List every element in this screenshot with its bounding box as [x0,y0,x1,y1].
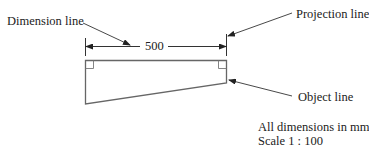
right-angle-marker-left [86,61,94,69]
dimension-line-label: Dimension line [7,14,84,28]
scale-note: Scale 1 : 100 [258,134,323,148]
object-outline [86,61,227,105]
projection-line-label: Projection line [296,7,369,21]
object-line-label: Object line [298,90,353,104]
units-note: All dimensions in mm [258,120,369,134]
right-angle-marker-right [219,61,227,69]
leader-dimension-line [83,23,130,45]
leader-projection-line [228,13,292,36]
dimension-value: 500 [143,39,166,53]
leader-object-line [229,80,292,96]
